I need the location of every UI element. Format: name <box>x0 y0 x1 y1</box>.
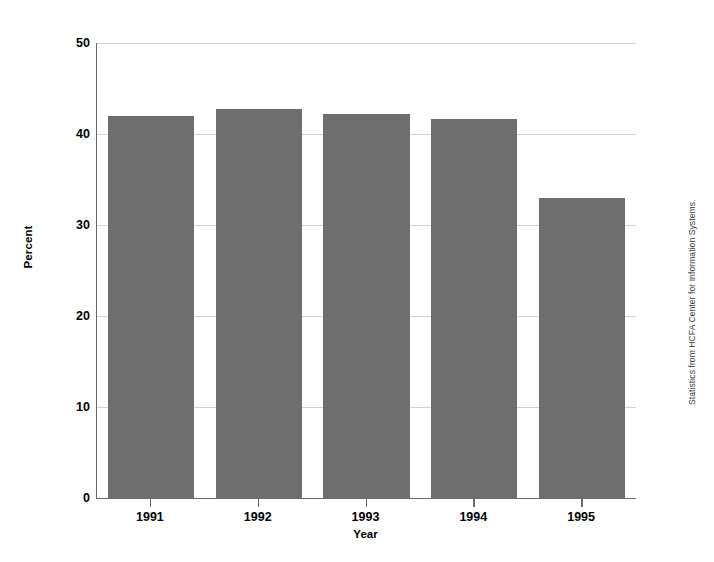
source-note: Statistics from HCFA Center for Informat… <box>687 165 701 405</box>
bar[interactable] <box>431 119 517 498</box>
y-axis-title: Percent <box>22 187 40 307</box>
bar[interactable] <box>323 114 409 498</box>
x-tick-label: 1992 <box>218 510 298 524</box>
x-tick-mark <box>366 499 368 507</box>
bar-slot <box>216 43 302 498</box>
x-tick-label: 1995 <box>541 510 621 524</box>
y-tick-label: 0 <box>46 492 90 504</box>
plot-area <box>96 43 636 499</box>
x-tick-label: 1991 <box>110 510 190 524</box>
bar-slot <box>431 43 517 498</box>
x-tick-label: 1993 <box>326 510 406 524</box>
bar-slot <box>323 43 409 498</box>
y-tick-label: 30 <box>46 219 90 231</box>
x-axis-title: Year <box>96 528 635 540</box>
bar-slot <box>108 43 194 498</box>
x-tick-mark <box>581 499 583 507</box>
y-tick-label: 20 <box>46 310 90 322</box>
y-axis-tick-labels: 01020304050 <box>40 0 90 562</box>
bar-slot <box>539 43 625 498</box>
y-tick-label: 50 <box>46 37 90 49</box>
bar[interactable] <box>108 116 194 498</box>
x-tick-mark <box>150 499 152 507</box>
bar[interactable] <box>539 198 625 498</box>
bar-chart-figure: Percent 01020304050 19911992199319941995… <box>0 0 714 562</box>
y-tick-label: 40 <box>46 128 90 140</box>
bar[interactable] <box>216 109 302 498</box>
bars-container <box>97 43 636 498</box>
x-tick-mark <box>473 499 475 507</box>
x-tick-mark <box>258 499 260 507</box>
y-tick-label: 10 <box>46 401 90 413</box>
x-tick-label: 1994 <box>433 510 513 524</box>
